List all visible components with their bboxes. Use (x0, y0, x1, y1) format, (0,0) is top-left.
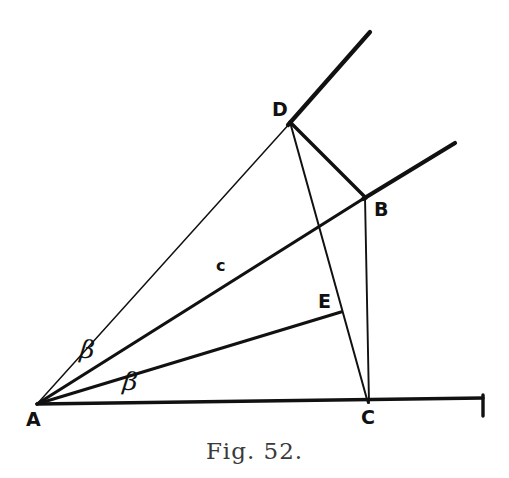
vertex-label-a: A (26, 410, 41, 429)
ray-b-extension (363, 143, 455, 199)
baseline-segment (37, 398, 483, 404)
geometric-figure: A B C D E β β c Fig. 52. (0, 0, 509, 478)
figure-caption: Fig. 52. (0, 438, 509, 464)
vertex-label-d: D (272, 100, 288, 119)
vertex-label-c: C (361, 408, 375, 427)
vertex-label-b: B (374, 200, 388, 219)
side-label-c: c (216, 258, 225, 274)
angle-label-beta-dab: β (79, 336, 96, 362)
ray-a-through-d (37, 122, 291, 404)
segment-d-to-c (290, 122, 368, 403)
ray-d-extension (288, 32, 370, 125)
vertex-label-e: E (318, 292, 331, 311)
segment-b-to-c (365, 197, 369, 403)
angle-label-beta-eac: β (122, 368, 139, 394)
figure-drawing-canvas (0, 0, 509, 478)
ray-a-through-b (37, 197, 366, 404)
